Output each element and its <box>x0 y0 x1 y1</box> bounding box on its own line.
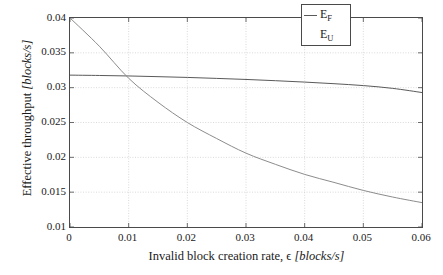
x-axis-title: Invalid block creation rate, ϵ [blocks/s… <box>69 249 424 264</box>
x-axis-title-text: Invalid block creation rate, <box>149 249 284 263</box>
gridlines <box>70 18 422 227</box>
x-tick-label: 0.06 <box>399 232 443 243</box>
legend-box[interactable]: EF EU <box>301 4 351 46</box>
legend-swatch-ef <box>304 15 317 16</box>
legend-swatch-eu <box>304 35 317 36</box>
x-tick-label: 0.02 <box>164 232 208 243</box>
x-tick-label: 0 <box>47 232 91 243</box>
x-tick-label: 0.01 <box>106 232 150 243</box>
legend-label-ef: EF <box>320 7 332 25</box>
x-tick-label: 0.04 <box>282 232 326 243</box>
x-axis-symbol-epsilon: ϵ <box>286 249 291 263</box>
plot-area <box>69 17 423 228</box>
legend-item-ef[interactable]: EF <box>302 5 350 26</box>
x-tick-label: 0.05 <box>340 232 384 243</box>
plot-svg <box>70 18 422 227</box>
x-tick-label: 0.03 <box>223 232 267 243</box>
legend-item-eu[interactable]: EU <box>302 25 350 46</box>
figure-container: Effective throughput [blocks/s] 0.010.01… <box>0 0 443 275</box>
x-axis-title-units: [blocks/s] <box>294 249 344 263</box>
legend-label-eu: EU <box>320 27 333 45</box>
